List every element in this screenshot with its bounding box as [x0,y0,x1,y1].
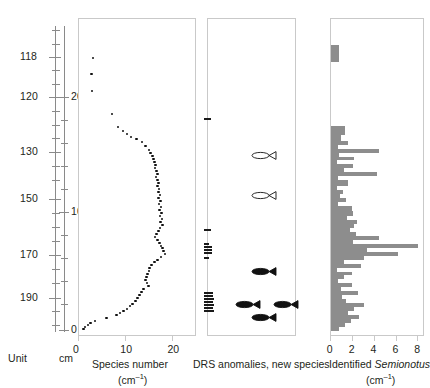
panel1-x-ticklabel: 10 [120,343,132,355]
anomaly-tick [204,249,212,251]
unit-tick-minor [52,180,60,181]
panel1-x-ticklabel: 0 [73,343,79,355]
panel3-caption-plain: Identified [329,358,375,370]
unit-axis-title: Unit [8,352,27,364]
panel3-x-tick [417,336,418,341]
panel3-x-ticklabel: 0 [327,343,333,355]
cm-tick-minor [61,281,68,282]
unit-tick-minor [52,227,60,228]
unit-tick-minor [52,111,60,112]
bar [331,172,377,176]
unit-tick-minor [52,241,60,242]
panel-drs-anomalies [207,18,296,336]
panel3-x-tick [374,336,375,341]
fish-icon-filled [235,296,261,307]
cm-axis-title: cm [59,352,73,364]
panel3-unit-close: ) [392,374,396,386]
cm-tick-minor [61,235,68,236]
unit-tick-major [49,57,61,58]
fish-icon-outline [251,147,277,158]
unit-tick-label: 190 [20,291,38,303]
anomaly-tick [204,252,212,254]
scatter-point [156,185,159,188]
bar [331,45,339,62]
fish-icon-filled [251,309,277,320]
scatter-point [140,291,143,294]
panel1-caption-line2: (cm–1) [118,372,147,386]
panel3-x-ticklabel: 8 [414,343,420,355]
unit-tick-minor [52,44,60,45]
cm-tick-minor [61,304,68,305]
bar [331,126,345,135]
panel1-unit-close: ) [144,374,148,386]
panel1-x-tick [125,336,126,341]
panel3-unit-exp: –1 [384,372,392,381]
anomaly-tick [204,257,209,259]
bar [331,327,339,331]
panel3-caption-line1: Identified Semionotus [329,358,430,370]
scatter-point [146,273,149,276]
anomaly-tick [204,243,209,245]
unit-tick-label: 130 [20,145,38,157]
unit-tick-minor [52,138,60,139]
anomaly-tick [204,307,213,309]
cm-tick-major [59,97,69,98]
anomaly-tick [204,310,214,312]
anomaly-tick [204,304,214,306]
unit-tick-minor [52,166,60,167]
panel3-x-tick [396,336,397,341]
panel3-x-tick [352,336,353,341]
panel3-caption-line2: (cm–1) [366,372,395,386]
unit-tick-minor [52,213,60,214]
scatter-point [145,276,148,279]
scatter-point [157,230,160,233]
cm-tick-major [59,212,69,213]
panel-species-number [78,18,196,336]
unit-tick-major [49,152,61,153]
anomaly-tick [204,301,213,303]
panel1-x-tick [78,336,79,341]
panel2-caption: DRS anomalies, new species [193,358,330,370]
anomaly-tick [204,246,212,248]
unit-tick-minor [52,269,60,270]
unit-tick-minor [52,84,60,85]
panel3-x-tick [330,336,331,341]
scatter-point [162,250,165,253]
cm-tick-minor [61,143,68,144]
unit-tick-minor [52,30,60,31]
fish-icon-filled [251,263,277,274]
fish-icon-outline [251,187,277,198]
cm-tick-label: 0 [71,323,77,335]
unit-tick-minor [52,283,60,284]
scatter-point [155,233,158,236]
scatter-point [157,191,160,194]
cm-tick-minor [61,189,68,190]
anomaly-tick [204,229,211,231]
anomaly-tick [204,298,214,300]
unit-tick-label: 150 [20,192,38,204]
anomaly-tick [204,292,213,294]
panel1-unit-exp: –1 [136,372,144,381]
scatter-point [138,294,141,297]
unit-tick-minor [52,311,60,312]
scatter-point [156,239,159,242]
unit-tick-major [49,199,61,200]
panel3-caption-italic: Semionotus [375,358,430,370]
panel1-x-ticklabel: 20 [167,343,179,355]
panel1-unit-cm: (cm [118,374,136,386]
unit-tick-label: 170 [20,248,38,260]
unit-tick-major [49,298,61,299]
panel3-x-ticklabel: 4 [371,343,377,355]
unit-tick-minor [52,70,60,71]
scatter-point [147,285,150,288]
panel-identified-semionotus [330,18,424,336]
panel3-x-ticklabel: 6 [392,343,398,355]
anomaly-tick [204,118,211,120]
cm-tick-minor [61,166,68,167]
scatter-point [122,310,125,313]
cm-tick-major [59,330,69,331]
panel1-x-tick [172,336,173,341]
unit-tick-major [49,255,61,256]
cm-axis-line [64,26,65,332]
